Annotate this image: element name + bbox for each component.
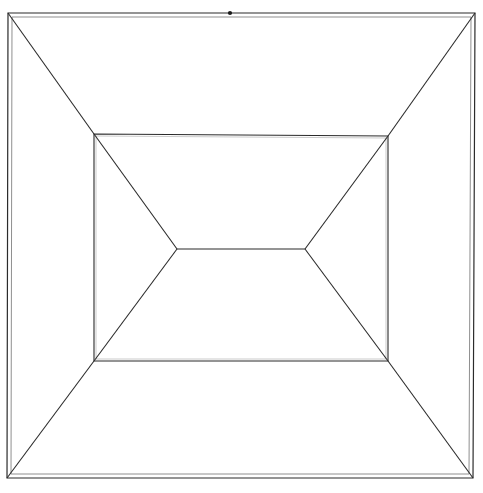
canvas-background: [0, 0, 483, 493]
drawing-canvas: [0, 0, 483, 493]
perspective-box-figure: [0, 0, 483, 493]
ink-dot-top-edge: [228, 11, 232, 15]
